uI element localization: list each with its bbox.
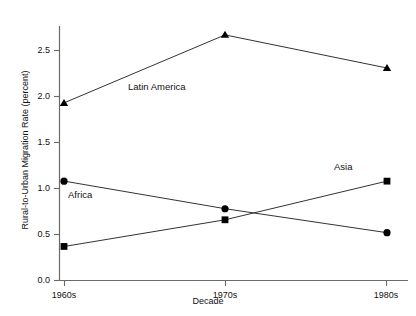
series-line (64, 181, 387, 246)
series-africa (60, 178, 390, 237)
data-point-marker (60, 99, 68, 106)
x-axis-title: Decade (0, 296, 416, 306)
x-axis-ticks (65, 281, 387, 287)
data-point-marker (221, 31, 229, 38)
data-point-marker (61, 243, 68, 250)
data-point-marker (222, 216, 229, 223)
data-point-marker (60, 178, 67, 185)
series-label-africa: Africa (68, 189, 92, 200)
data-point-marker (221, 205, 228, 212)
plot-area (0, 0, 416, 316)
series-line (64, 35, 387, 103)
series-label-asia: Asia (334, 161, 352, 172)
series-label-latin-america: Latin America (128, 81, 186, 92)
data-point-marker (384, 178, 391, 185)
chart-container: 2.5 2.0 1.5 1.0 0.5 0.0 1960s 1970s 1980… (0, 0, 416, 316)
y-tick-label-2-5: 2.5 (22, 45, 50, 55)
y-axis-ticks (54, 51, 60, 281)
y-axis-title: Rural-to-Urban Migration Rate (percent) (20, 55, 30, 245)
series-latin-america (60, 31, 391, 106)
data-point-marker (383, 229, 390, 236)
y-tick-label-0-0: 0.0 (22, 275, 50, 285)
